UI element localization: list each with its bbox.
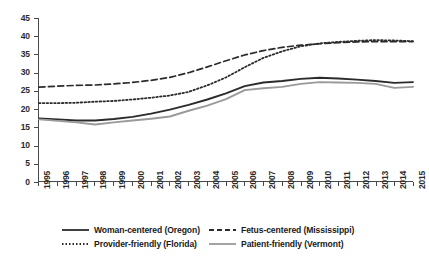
x-tick-label: 2003 <box>192 171 202 189</box>
x-tick-label: 2009 <box>305 171 315 189</box>
x-tick-mark <box>94 182 95 186</box>
line-chart-figure: 051015202530354045 199519961997199819992… <box>0 0 429 260</box>
x-tick-mark <box>113 182 114 186</box>
x-tick-mark <box>301 182 302 186</box>
y-tick-label: 45 <box>0 13 30 23</box>
y-tick-label: 25 <box>0 85 30 95</box>
x-tick-mark <box>263 182 264 186</box>
legend-label: Provider-friendly (Florida) <box>94 239 197 249</box>
x-tick-label: 2012 <box>361 171 371 189</box>
y-tick-label: 35 <box>0 49 30 59</box>
x-tick-mark <box>244 182 245 186</box>
x-tick-mark <box>282 182 283 186</box>
x-tick-label: 2011 <box>342 171 352 189</box>
x-tick-label: 2001 <box>155 171 165 189</box>
legend-item[interactable]: Woman-centered (Oregon) <box>62 225 205 235</box>
x-tick-mark <box>188 182 189 186</box>
legend-label: Fetus-centered (Mississippi) <box>241 225 354 235</box>
x-tick-mark <box>376 182 377 186</box>
x-tick-label: 1998 <box>98 171 108 189</box>
x-tick-mark <box>338 182 339 186</box>
x-tick-mark <box>319 182 320 186</box>
legend-label: Patient-friendly (Vermont) <box>241 239 343 249</box>
legend-swatch-dashed-icon <box>209 226 236 234</box>
y-tick-mark <box>34 146 38 147</box>
x-tick-label: 2010 <box>323 171 333 189</box>
x-tick-mark <box>57 182 58 186</box>
x-tick-mark <box>357 182 358 186</box>
x-tick-label: 2000 <box>136 171 146 189</box>
x-tick-label: 1996 <box>61 171 71 189</box>
x-tick-label: 2008 <box>286 171 296 189</box>
y-tick-label: 30 <box>0 67 30 77</box>
y-tick-mark <box>34 91 38 92</box>
x-tick-mark <box>413 182 414 186</box>
x-tick-label: 2004 <box>211 171 221 189</box>
series-line-3 <box>39 82 413 124</box>
x-tick-mark <box>132 182 133 186</box>
x-tick-label: 2007 <box>267 171 277 189</box>
legend-swatch-solid-icon <box>209 240 236 248</box>
y-tick-label: 5 <box>0 158 30 168</box>
y-tick-mark <box>34 73 38 74</box>
x-tick-label: 2006 <box>248 171 258 189</box>
legend-item[interactable]: Fetus-centered (Mississippi) <box>209 225 412 235</box>
legend-item[interactable]: Provider-friendly (Florida) <box>62 239 205 249</box>
x-tick-mark <box>38 182 39 186</box>
x-tick-label: 2013 <box>380 171 390 189</box>
y-tick-mark <box>34 36 38 37</box>
y-tick-label: 20 <box>0 104 30 114</box>
y-tick-label: 10 <box>0 140 30 150</box>
x-tick-label: 2015 <box>417 171 427 189</box>
x-tick-label: 1997 <box>80 171 90 189</box>
y-tick-label: 0 <box>0 177 30 187</box>
x-tick-label: 2005 <box>230 171 240 189</box>
x-tick-label: 1995 <box>42 171 52 189</box>
legend-swatch-solid-icon <box>62 226 89 234</box>
x-tick-mark <box>76 182 77 186</box>
x-tick-label: 1999 <box>117 171 127 189</box>
x-tick-mark <box>394 182 395 186</box>
plot-area <box>38 18 413 182</box>
x-tick-mark <box>169 182 170 186</box>
legend-item[interactable]: Patient-friendly (Vermont) <box>209 239 412 249</box>
y-tick-label: 40 <box>0 31 30 41</box>
y-tick-mark <box>34 164 38 165</box>
y-tick-mark <box>34 109 38 110</box>
y-tick-mark <box>34 127 38 128</box>
x-tick-label: 2014 <box>398 171 408 189</box>
x-tick-mark <box>207 182 208 186</box>
legend-swatch-dotted-icon <box>62 240 89 248</box>
x-tick-mark <box>226 182 227 186</box>
y-tick-mark <box>34 18 38 19</box>
chart-legend: Woman-centered (Oregon)Fetus-centered (M… <box>62 225 412 249</box>
x-tick-label: 2002 <box>173 171 183 189</box>
y-tick-label: 15 <box>0 122 30 132</box>
series-lines-svg <box>39 18 413 181</box>
y-tick-mark <box>34 54 38 55</box>
legend-label: Woman-centered (Oregon) <box>94 225 200 235</box>
x-tick-mark <box>151 182 152 186</box>
